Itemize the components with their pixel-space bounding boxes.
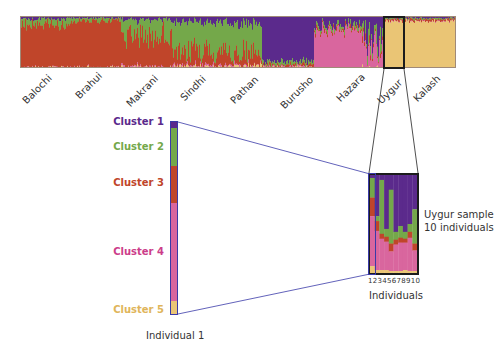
uygur-caption-line2: 10 individuals [424,222,494,233]
cluster-5-label: Cluster 5 [94,304,164,315]
individual-1-column [170,121,178,315]
cluster-2-label: Cluster 2 [94,141,164,152]
individual-1-label: Individual 1 [146,330,204,341]
population-label-makrani: Makrani [124,73,160,109]
population-label-hazara: Hazara [334,71,367,104]
cluster-4-segment [171,203,177,301]
individual-number-ticks: 12345678910 [368,277,420,285]
cluster-3-label: Cluster 3 [94,177,164,188]
uygur-admixture-bars [370,175,417,273]
cluster-4-label: Cluster 4 [94,246,164,257]
cluster-5-segment [171,301,177,314]
uygur-highlight-box [383,16,405,69]
cluster-3-segment [171,166,177,202]
cluster-1-label: Cluster 1 [94,116,164,127]
uygur-caption-line1: Uygur sample [424,209,494,220]
population-label-uygur: Uygur [375,77,404,106]
individual-1-highlight [368,173,376,275]
cluster-2-segment [171,128,177,166]
population-label-brahui: Brahui [73,70,104,101]
individuals-axis-label: Individuals [369,290,423,301]
population-label-kalash: Kalash [411,73,442,104]
population-label-balochi: Balochi [20,72,54,106]
population-label-sindhi: Sindhi [178,73,208,103]
population-label-burusho: Burusho [278,74,315,111]
population-label-pathan: Pathan [228,74,260,106]
